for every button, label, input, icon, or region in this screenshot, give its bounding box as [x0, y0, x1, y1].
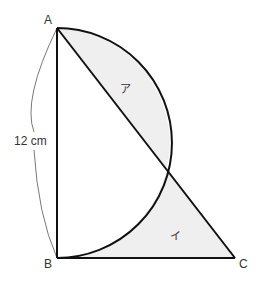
dimension-arc-lower — [34, 150, 57, 258]
length-label: 12 cm — [14, 134, 47, 148]
point-b-label: B — [44, 257, 52, 271]
dimension-arc — [31, 28, 57, 132]
geometry-diagram: A B C 12 cm ア イ — [0, 0, 266, 284]
region-i-shade — [57, 168, 235, 258]
region-a-label: ア — [120, 83, 131, 96]
region-i-label: イ — [170, 230, 181, 243]
point-c-label: C — [239, 257, 248, 271]
point-a-label: A — [44, 13, 52, 27]
